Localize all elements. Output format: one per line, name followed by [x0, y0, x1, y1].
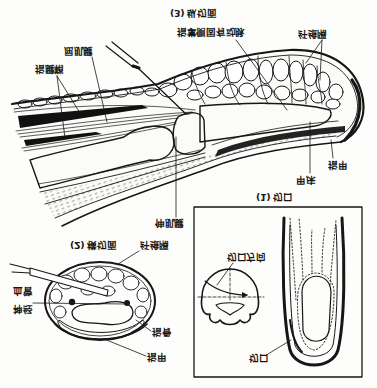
fat-lobule	[329, 84, 343, 100]
label-tendon-sheath: 指腱鞘	[35, 64, 64, 75]
label-incision: 切口	[249, 353, 268, 364]
label-nerve: 神经	[13, 304, 32, 315]
fat-lobule	[187, 90, 203, 100]
fat-lobule	[54, 306, 66, 318]
fat-lobule	[74, 268, 90, 282]
leader-nail	[104, 339, 146, 356]
fat-lobule	[50, 289, 62, 303]
leader-incision-direction	[217, 263, 233, 285]
label-fibrous-septa: 纤维隔	[298, 29, 327, 40]
fat-lobule	[135, 306, 147, 318]
label-vessel: 血管	[13, 286, 32, 297]
fat-lobule	[239, 83, 255, 97]
fat-lobule	[273, 59, 289, 81]
probe-handle-prong	[10, 264, 30, 269]
leader-fibrous-septa	[118, 251, 139, 264]
schematic-phalanx	[216, 303, 244, 315]
fat-lobule	[205, 86, 221, 98]
finger-anatomy-figure: (3) 纵切面 指掌侧固有动脉 纤维隔 屈肌腱 指腱鞘 指甲 甲床 伸肌腱 (1…	[0, 0, 377, 388]
label-cross-nail: 指甲	[147, 352, 166, 363]
fingertip-nail-region	[302, 276, 331, 341]
label-proper-palmar-digital-artery: 指掌侧固有动脉	[177, 27, 245, 38]
incision-dotted-line	[299, 218, 303, 280]
illustration-canvas	[0, 0, 377, 388]
label-nail: 指甲	[328, 160, 347, 171]
incision-dotted-line	[330, 220, 336, 285]
fat-lobule	[259, 60, 273, 84]
label-incision-direction: 切口方向	[227, 252, 266, 263]
incision-dotted-line	[290, 218, 296, 300]
incision-direction-arrow	[205, 281, 247, 295]
cross-section-phalanx	[72, 302, 133, 325]
fat-lobule	[289, 61, 303, 83]
neurovascular-bundle-right	[124, 300, 130, 306]
label-extensor-tendon: 伸肌腱	[155, 218, 184, 229]
fat-lobule	[326, 99, 340, 109]
fat-lobule	[243, 59, 259, 81]
fat-lobule	[137, 288, 149, 302]
caption-incision: (1) 切口	[256, 192, 293, 203]
probe-handle-prong	[112, 42, 138, 63]
fat-lobule	[311, 91, 325, 103]
neurovascular-bundle-left	[69, 299, 75, 305]
probe-handle-prong	[106, 46, 133, 67]
longitudinal-section	[12, 40, 364, 226]
fat-lobule	[123, 276, 139, 290]
fingertip-outline	[283, 218, 344, 365]
probe-handle-prong	[12, 272, 30, 273]
incision-leader-lines	[217, 263, 291, 354]
leader-neurovascular	[33, 303, 127, 304]
incision-panel	[194, 207, 362, 377]
fat-lobule	[256, 85, 272, 99]
label-phalanx: 指骨	[152, 327, 171, 338]
incision-dotted-line	[322, 228, 325, 272]
leader-incision	[268, 340, 291, 354]
caption-longitudinal-section: (3) 纵切面	[170, 8, 217, 19]
fat-lobule	[91, 267, 107, 281]
fat-lobule	[303, 64, 317, 86]
fat-lobule	[208, 63, 226, 83]
fat-lobule	[108, 269, 124, 283]
label-flexor-tendon: 屈肌腱	[64, 46, 93, 57]
label-cross-fibrous-septa: 纤维隔	[140, 240, 169, 251]
caption-cross-section: (2) 横切面	[70, 240, 117, 251]
fat-lobule	[274, 86, 290, 100]
fat-lobule	[222, 84, 238, 98]
label-nail-bed: 甲床	[296, 175, 315, 186]
fingertip-inner-wall	[290, 225, 338, 356]
